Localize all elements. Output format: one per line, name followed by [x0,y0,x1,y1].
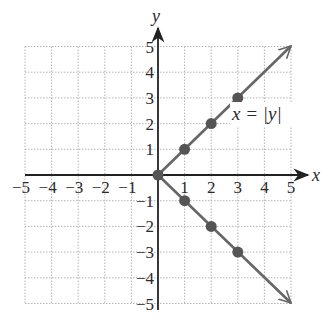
data-point [232,92,243,103]
y-tick-label: 5 [146,38,155,57]
x-tick-label: 4 [260,178,269,197]
x-tick-label: −5 [12,178,30,197]
x-tick-label: −4 [39,178,58,197]
y-axis-label: y [150,6,160,26]
y-tick-label: −2 [136,217,154,236]
y-tick-label: 4 [146,63,155,82]
x-tick-label: −1 [118,178,136,197]
y-tick-label: 2 [146,115,155,134]
data-point [179,144,190,155]
y-tick-label: 3 [146,89,155,108]
data-point [206,221,217,232]
x-axis-label: x [311,165,320,185]
y-tick-label: −4 [136,269,155,288]
x-tick-label: 2 [207,178,216,197]
x-tick-label: 1 [180,178,189,197]
y-tick-label: 1 [146,140,155,159]
coordinate-plane: x y −5−4−3−2−112345 −5−4−3−2−112345 x = … [0,0,332,328]
y-tick-label: −1 [136,192,154,211]
data-point [206,118,217,129]
x-tick-label: 3 [234,178,243,197]
x-tick-label: 5 [287,178,296,197]
equation-label: x = |y| [231,103,282,124]
data-point [179,195,190,206]
graph-stage: x y −5−4−3−2−112345 −5−4−3−2−112345 x = … [0,0,332,328]
y-tick-label: −5 [136,295,154,314]
lower-branch-line [158,175,291,303]
data-point [153,170,164,181]
x-tick-label: −2 [92,178,110,197]
data-point [232,247,243,258]
x-tick-label: −3 [65,178,83,197]
y-tick-label: −3 [136,243,154,262]
